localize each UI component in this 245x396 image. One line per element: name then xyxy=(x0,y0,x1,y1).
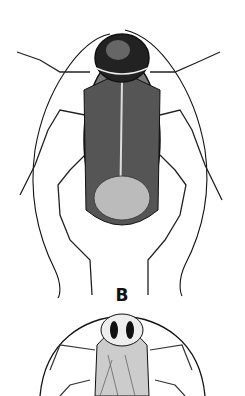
cockroach-upper xyxy=(84,34,160,225)
cockroach-illustration xyxy=(0,0,245,396)
cockroach-lower xyxy=(40,314,205,396)
panel-label: B xyxy=(111,285,133,305)
